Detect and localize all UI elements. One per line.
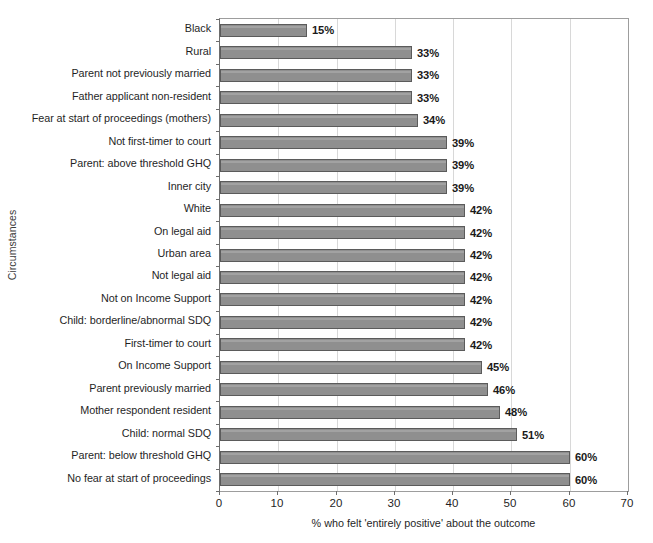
bar[interactable] — [220, 316, 465, 329]
x-axis-title: % who felt 'entirely positive' about the… — [219, 517, 628, 529]
bar-value-label: 42% — [470, 249, 492, 261]
bar[interactable] — [220, 383, 488, 396]
category-label: On legal aid — [20, 226, 211, 237]
bar-highlight — [221, 26, 306, 28]
bar-highlight — [221, 318, 464, 320]
bar[interactable] — [220, 159, 447, 172]
bar[interactable] — [220, 406, 500, 419]
bar-row: 42% — [220, 316, 628, 329]
bar-highlight — [221, 206, 464, 208]
bar[interactable] — [220, 24, 307, 37]
category-label: Parent not previously married — [20, 68, 211, 79]
category-label: Not on Income Support — [20, 293, 211, 304]
bar-value-label: 42% — [470, 316, 492, 328]
category-tick — [216, 131, 220, 132]
category-label: White — [20, 203, 211, 214]
x-axis-tick-label: 20 — [330, 497, 343, 509]
category-label: Inner city — [20, 181, 211, 192]
x-axis: % who felt 'entirely positive' about the… — [219, 491, 628, 541]
x-axis-tick — [394, 491, 395, 495]
bar-row: 33% — [220, 91, 628, 104]
category-tick — [216, 176, 220, 177]
bar-value-label: 42% — [470, 204, 492, 216]
bar[interactable] — [220, 293, 465, 306]
bar[interactable] — [220, 249, 465, 262]
category-label: Father applicant non-resident — [20, 91, 211, 102]
bar-highlight — [221, 93, 411, 95]
bar-value-label: 45% — [487, 361, 509, 373]
category-tick — [216, 424, 220, 425]
bar-highlight — [221, 183, 446, 185]
bar-highlight — [221, 408, 499, 410]
bar[interactable] — [220, 271, 465, 284]
bar[interactable] — [220, 428, 517, 441]
bar[interactable] — [220, 338, 465, 351]
category-tick — [216, 379, 220, 380]
category-label: First-timer to court — [20, 338, 211, 349]
bar-value-label: 42% — [470, 271, 492, 283]
category-tick — [216, 86, 220, 87]
bar-row: 42% — [220, 293, 628, 306]
x-axis-tick — [219, 491, 220, 495]
x-axis-tick-label: 60 — [563, 497, 576, 509]
x-axis-tick — [569, 491, 570, 495]
category-label: Urban area — [20, 248, 211, 259]
category-label: Mother respondent resident — [20, 405, 211, 416]
bar-value-label: 33% — [417, 92, 439, 104]
bar-highlight — [221, 453, 569, 455]
bar-value-label: 42% — [470, 294, 492, 306]
category-tick — [216, 289, 220, 290]
category-label: Not first-timer to court — [20, 136, 211, 147]
bar[interactable] — [220, 226, 465, 239]
bar-highlight — [221, 228, 464, 230]
bar-row: 39% — [220, 136, 628, 149]
x-axis-tick — [336, 491, 337, 495]
category-axis-labels: BlackRuralParent not previously marriedF… — [22, 18, 215, 490]
bar-chart: Circumstances BlackRuralParent not previ… — [0, 0, 653, 543]
category-label: Black — [20, 23, 211, 34]
category-tick — [216, 266, 220, 267]
bar-row: 34% — [220, 114, 628, 127]
bar-value-label: 51% — [522, 429, 544, 441]
category-tick — [216, 446, 220, 447]
bar[interactable] — [220, 361, 482, 374]
x-axis-tick-label: 10 — [271, 497, 284, 509]
category-label: Child: borderline/abnormal SDQ — [20, 315, 211, 326]
bar[interactable] — [220, 114, 418, 127]
bar-highlight — [221, 273, 464, 275]
x-axis-tick — [510, 491, 511, 495]
bar[interactable] — [220, 473, 570, 486]
bar-highlight — [221, 161, 446, 163]
category-label: Parent: below threshold GHQ — [20, 450, 211, 461]
bar-row: 33% — [220, 46, 628, 59]
category-label: No fear at start of proceedings — [20, 473, 211, 484]
bar-value-label: 60% — [575, 451, 597, 463]
bar-value-label: 15% — [312, 24, 334, 36]
bar[interactable] — [220, 69, 412, 82]
bar-value-label: 46% — [493, 384, 515, 396]
bar-row: 15% — [220, 24, 628, 37]
bar-row: 46% — [220, 383, 628, 396]
bar[interactable] — [220, 91, 412, 104]
bar[interactable] — [220, 46, 412, 59]
x-axis-tick-label: 40 — [446, 497, 459, 509]
bar-row: 42% — [220, 271, 628, 284]
bar[interactable] — [220, 451, 570, 464]
bar[interactable] — [220, 136, 447, 149]
category-tick — [216, 356, 220, 357]
category-label: Parent previously married — [20, 383, 211, 394]
x-axis-tick — [627, 491, 628, 495]
category-label: Parent: above threshold GHQ — [20, 158, 211, 169]
x-axis-tick-label: 0 — [216, 497, 222, 509]
bar[interactable] — [220, 204, 465, 217]
bar[interactable] — [220, 181, 447, 194]
x-axis-tick-label: 50 — [504, 497, 517, 509]
category-label: Fear at start of proceedings (mothers) — [20, 113, 211, 124]
bar-row: 60% — [220, 473, 628, 486]
bar-value-label: 42% — [470, 339, 492, 351]
bar-row: 51% — [220, 428, 628, 441]
y-axis-title: Circumstances — [2, 0, 22, 490]
bar-value-label: 33% — [417, 47, 439, 59]
category-label: Rural — [20, 46, 211, 57]
category-tick — [216, 401, 220, 402]
